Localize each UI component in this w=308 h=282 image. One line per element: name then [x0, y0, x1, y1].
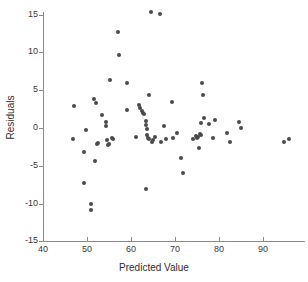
- y-tick-mark: [39, 166, 44, 167]
- data-point: [164, 137, 168, 141]
- y-axis-line: [43, 12, 44, 242]
- data-point: [199, 133, 203, 137]
- y-axis-title: Residuals: [5, 78, 16, 158]
- data-point: [89, 208, 93, 212]
- data-point: [162, 124, 166, 128]
- data-point: [125, 81, 129, 85]
- data-point: [179, 156, 183, 160]
- scatter-plot-figure: 151050-5-10-15 405060708090 Residuals Pr…: [0, 0, 308, 282]
- y-tick-label: 10: [12, 47, 38, 56]
- data-point: [201, 93, 205, 97]
- x-tick-label: 50: [74, 245, 100, 254]
- data-point: [225, 131, 229, 135]
- data-point: [282, 140, 286, 144]
- y-tick-label: 0: [12, 123, 38, 132]
- data-point: [96, 141, 100, 145]
- y-tick-label: 5: [12, 85, 38, 94]
- data-point: [211, 136, 215, 140]
- data-point: [72, 104, 76, 108]
- x-tick-label: 60: [118, 245, 144, 254]
- data-point: [116, 30, 120, 34]
- y-tick-label: 15: [12, 10, 38, 19]
- data-point: [207, 122, 211, 126]
- data-point: [84, 128, 88, 132]
- data-point: [213, 118, 217, 122]
- data-point: [108, 78, 112, 82]
- data-point: [94, 101, 98, 105]
- data-point: [181, 171, 185, 175]
- data-point: [82, 181, 86, 185]
- x-tick-mark: [43, 237, 44, 242]
- data-point: [170, 100, 174, 104]
- data-point: [159, 140, 163, 144]
- data-point: [171, 136, 175, 140]
- y-tick-mark: [39, 128, 44, 129]
- y-tick-mark: [39, 52, 44, 53]
- data-point: [142, 112, 146, 116]
- data-point: [200, 81, 204, 85]
- x-tick-label: 90: [250, 245, 276, 254]
- x-tick-label: 40: [30, 245, 56, 254]
- y-tick-mark: [39, 90, 44, 91]
- x-tick-label: 70: [162, 245, 188, 254]
- data-point: [197, 146, 201, 150]
- y-tick-label: -5: [12, 161, 38, 170]
- y-tick-label: -10: [12, 199, 38, 208]
- data-point: [199, 121, 203, 125]
- x-tick-mark: [175, 237, 176, 242]
- data-point: [144, 187, 148, 191]
- data-point: [147, 93, 151, 97]
- data-point: [82, 150, 86, 154]
- data-point: [107, 142, 111, 146]
- data-point: [117, 53, 121, 57]
- x-axis-title: Predicted Value: [0, 262, 308, 273]
- x-tick-mark: [219, 237, 220, 242]
- data-point: [239, 126, 243, 130]
- data-point: [145, 127, 149, 131]
- data-point: [237, 120, 241, 124]
- data-point: [125, 108, 129, 112]
- data-point: [149, 10, 153, 14]
- x-tick-mark: [87, 237, 88, 242]
- data-point: [71, 137, 75, 141]
- data-point: [111, 137, 115, 141]
- x-tick-mark: [263, 237, 264, 242]
- x-axis-line: [43, 241, 305, 242]
- data-point: [228, 140, 232, 144]
- x-tick-mark: [131, 237, 132, 242]
- data-point: [100, 113, 104, 117]
- data-point: [93, 159, 97, 163]
- data-point: [158, 12, 162, 16]
- data-point: [89, 202, 93, 206]
- data-point: [134, 135, 138, 139]
- x-tick-label: 80: [206, 245, 232, 254]
- y-tick-mark: [39, 204, 44, 205]
- data-point: [104, 124, 108, 128]
- plot-area: 151050-5-10-15 405060708090: [0, 0, 308, 282]
- data-point: [175, 131, 179, 135]
- data-point: [153, 135, 157, 139]
- data-point: [202, 116, 206, 120]
- data-point: [287, 137, 291, 141]
- y-tick-mark: [39, 15, 44, 16]
